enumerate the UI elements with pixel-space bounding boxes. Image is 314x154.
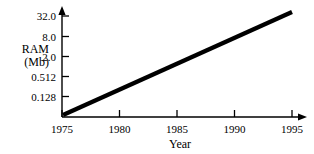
y-axis-title-units: (Mb) xyxy=(24,56,49,68)
ram-growth-chart: 32.0 8.0 2.0 0.512 0.128 RAM (Mb) 1975 1… xyxy=(0,0,314,154)
y-tick-label-0512: 0.512 xyxy=(0,71,56,82)
x-tick-label-1985: 1985 xyxy=(166,124,188,135)
y-axis-title: RAM xyxy=(22,43,49,55)
ram-growth-line xyxy=(63,12,292,115)
y-tick-label-0128: 0.128 xyxy=(0,91,56,102)
x-tick-label-1995: 1995 xyxy=(281,124,303,135)
x-tick-label-1975: 1975 xyxy=(51,124,73,135)
x-tick-label-1990: 1990 xyxy=(224,124,246,135)
x-tick-label-1980: 1980 xyxy=(109,124,131,135)
x-axis-arrowhead xyxy=(298,113,307,120)
y-tick-label-8: 8.0 xyxy=(0,31,56,42)
x-axis-title: Year xyxy=(169,138,191,150)
y-tick-label-32: 32.0 xyxy=(0,11,56,22)
y-axis-arrowhead xyxy=(58,6,65,15)
